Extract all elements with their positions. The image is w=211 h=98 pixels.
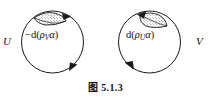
left-form-close-paren: ) bbox=[55, 29, 59, 40]
left-form-label: −d(ρVα) bbox=[25, 30, 58, 41]
label-u: U bbox=[3, 36, 11, 47]
right-form-close-paren: ) bbox=[151, 29, 155, 40]
figure-caption: 图 5.1.3 bbox=[0, 79, 211, 94]
label-v: V bbox=[196, 36, 203, 47]
right-form-label: d(ρUα) bbox=[126, 30, 154, 41]
figure-container: U V −d(ρVα) d(ρUα) 图 5.1.3 bbox=[0, 0, 211, 98]
left-arrow-bottom bbox=[70, 63, 78, 71]
left-circle-group bbox=[22, 11, 84, 73]
right-circle-group bbox=[119, 11, 181, 73]
